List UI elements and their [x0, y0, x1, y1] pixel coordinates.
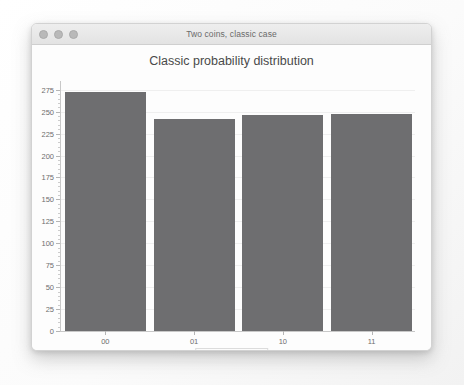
y-tick-minor	[58, 151, 60, 152]
x-tick-label: 01	[190, 337, 198, 346]
y-tick-minor	[58, 129, 60, 130]
traffic-lights	[39, 24, 78, 44]
y-tick	[56, 156, 60, 157]
y-tick	[56, 221, 60, 222]
y-tick-minor	[58, 208, 60, 209]
screen: Two coins, classic case Classic probabil…	[0, 0, 464, 385]
y-tick-minor	[58, 186, 60, 187]
y-tick	[56, 243, 60, 244]
minimize-button[interactable]	[54, 30, 63, 39]
y-tick	[56, 177, 60, 178]
y-tick-minor	[58, 305, 60, 306]
y-tick	[56, 309, 60, 310]
close-button[interactable]	[39, 30, 48, 39]
window-title: Two coins, classic case	[32, 29, 431, 39]
y-tick-label: 125	[41, 217, 54, 226]
zoom-button[interactable]	[69, 30, 78, 39]
window-content: Classic probability distribution 0255075…	[32, 45, 431, 350]
y-tick-minor	[58, 99, 60, 100]
y-tick-minor	[58, 125, 60, 126]
y-tick-label: 0	[50, 327, 54, 336]
y-tick-minor	[58, 313, 60, 314]
x-tick-label: 00	[101, 337, 109, 346]
y-tick-minor	[58, 261, 60, 262]
y-tick-minor	[58, 94, 60, 95]
y-tick-label: 75	[46, 261, 54, 270]
y-tick	[56, 112, 60, 113]
y-tick-minor	[58, 169, 60, 170]
y-tick-minor	[58, 239, 60, 240]
x-tick	[194, 331, 195, 335]
y-tick-minor	[58, 274, 60, 275]
y-tick-minor	[58, 147, 60, 148]
bar-10[interactable]	[242, 115, 323, 331]
y-tick-minor	[58, 283, 60, 284]
y-tick-minor	[58, 138, 60, 139]
y-tick-label: 250	[41, 107, 54, 116]
x-tick	[372, 331, 373, 335]
y-tick-minor	[58, 103, 60, 104]
y-tick-minor	[58, 204, 60, 205]
y-tick-minor	[58, 278, 60, 279]
y-tick-minor	[58, 217, 60, 218]
y-tick-minor	[58, 252, 60, 253]
y-tick-minor	[58, 296, 60, 297]
y-tick-label: 225	[41, 129, 54, 138]
y-tick-minor	[58, 142, 60, 143]
x-tick	[283, 331, 284, 335]
y-tick-minor	[58, 270, 60, 271]
chart-legend: occurrences	[195, 348, 269, 351]
y-tick-minor	[58, 226, 60, 227]
bar-11[interactable]	[331, 114, 412, 331]
y-tick-minor	[58, 230, 60, 231]
y-tick-label: 50	[46, 283, 54, 292]
x-tick-label: 10	[279, 337, 287, 346]
y-tick-minor	[58, 182, 60, 183]
y-tick-minor	[58, 160, 60, 161]
y-tick-minor	[58, 322, 60, 323]
chart-title: Classic probability distribution	[32, 54, 431, 68]
y-tick-minor	[58, 116, 60, 117]
x-tick-label: 11	[368, 337, 376, 346]
y-tick-minor	[58, 213, 60, 214]
y-tick	[56, 90, 60, 91]
bar-01[interactable]	[154, 119, 235, 331]
bar-00[interactable]	[65, 92, 146, 331]
x-axis-line	[60, 331, 415, 332]
y-tick-label: 100	[41, 239, 54, 248]
y-tick-minor	[58, 235, 60, 236]
x-tick	[105, 331, 106, 335]
y-tick-label: 275	[41, 85, 54, 94]
y-tick-minor	[58, 318, 60, 319]
y-tick-minor	[58, 256, 60, 257]
y-tick	[56, 287, 60, 288]
y-tick-label: 25	[46, 305, 54, 314]
y-tick	[56, 265, 60, 266]
bar-series	[61, 81, 415, 331]
y-tick-minor	[58, 107, 60, 108]
y-tick-label: 150	[41, 195, 54, 204]
y-tick-minor	[58, 327, 60, 328]
y-tick-label: 200	[41, 151, 54, 160]
y-tick-minor	[58, 195, 60, 196]
y-tick-minor	[58, 300, 60, 301]
y-tick-minor	[58, 292, 60, 293]
y-tick-label: 175	[41, 173, 54, 182]
app-window: Two coins, classic case Classic probabil…	[31, 23, 432, 351]
plot-area: 0255075100125150175200225250275 00011011	[60, 81, 415, 331]
window-titlebar[interactable]: Two coins, classic case	[32, 24, 431, 45]
y-tick	[56, 134, 60, 135]
y-tick-minor	[58, 120, 60, 121]
y-tick-minor	[58, 164, 60, 165]
y-tick-minor	[58, 173, 60, 174]
y-tick	[56, 331, 60, 332]
y-tick	[56, 199, 60, 200]
y-tick-minor	[58, 248, 60, 249]
y-tick-minor	[58, 191, 60, 192]
